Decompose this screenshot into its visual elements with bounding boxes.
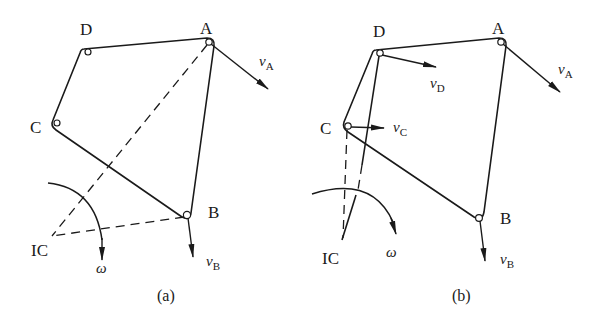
panel-b: D A C B IC vA vD vC vB ω (b) <box>312 19 573 305</box>
point-label-ic: IC <box>31 241 48 260</box>
velocity-arrow-vb <box>480 221 485 261</box>
point-label-b: B <box>208 203 219 222</box>
point-label-ic: IC <box>322 249 339 268</box>
velocity-arrow-va <box>503 44 560 92</box>
rigid-body-outline <box>52 38 214 218</box>
velocity-arrow-vd <box>382 55 436 67</box>
point-label-c: C <box>30 118 41 137</box>
hinge-b <box>183 211 190 218</box>
angular-velocity-arc <box>48 183 102 240</box>
point-label-d: D <box>373 22 385 41</box>
angular-velocity-arrow <box>391 218 396 234</box>
velocity-arrow-vb <box>188 218 193 257</box>
velocity-label-va: vA <box>259 53 274 72</box>
point-label-a: A <box>492 19 505 38</box>
dashed-line-c-to-ic <box>343 130 347 238</box>
velocity-label-vc: vC <box>393 119 407 138</box>
velocity-label-vb: vB <box>206 253 220 272</box>
hinge-c <box>54 120 60 126</box>
point-label-a: A <box>200 19 213 38</box>
dashed-line-b-to-ic <box>52 217 184 236</box>
point-label-d: D <box>80 20 92 39</box>
dashed-line-d-to-ic <box>358 165 362 190</box>
panel-a: D A C B IC vA vB ω (a) <box>30 19 274 305</box>
caption-a: (a) <box>157 287 175 305</box>
point-label-c: C <box>320 119 331 138</box>
instant-center-diagram: D A C B IC vA vB ω (a) D <box>0 0 602 321</box>
hinge-d <box>85 49 91 55</box>
line-d-to-ic-lower <box>342 195 356 240</box>
dashed-line-a-to-ic <box>52 45 207 236</box>
velocity-label-va: vA <box>558 61 573 80</box>
omega-label: ω <box>96 260 107 276</box>
caption-b: (b) <box>452 287 471 305</box>
velocity-label-vd: vD <box>430 75 445 94</box>
velocity-arrow-vc <box>351 127 384 128</box>
hinge-c <box>345 123 351 129</box>
omega-label: ω <box>386 244 397 260</box>
hinge-b <box>476 215 483 222</box>
velocity-label-vb: vB <box>500 251 514 270</box>
point-label-b: B <box>500 209 511 228</box>
